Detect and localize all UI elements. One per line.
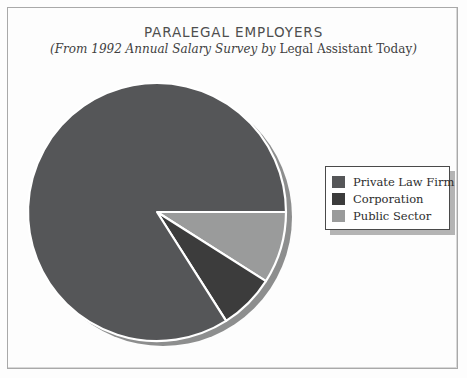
legend-item-private-law-firm[interactable]: Private Law Firm [332,174,454,190]
legend-label-corporation: Corporation [353,191,424,207]
legend-item-public-sector[interactable]: Public Sector [332,208,454,224]
legend-swatch-public-sector [332,210,345,222]
legend-label-private-law-firm: Private Law Firm [353,174,454,190]
chart-page: PARALEGAL EMPLOYERS (From 1992 Annual Sa… [0,0,467,378]
legend-item-corporation[interactable]: Corporation [332,191,454,207]
legend-swatch-private-law-firm [332,176,345,188]
legend-label-public-sector: Public Sector [353,208,431,224]
pie-slices [28,83,286,341]
legend-swatch-corporation [332,193,345,205]
legend-box[interactable]: Private Law Firm Corporation Public Sect… [325,166,450,230]
legend-item-list: Private Law Firm Corporation Public Sect… [332,174,454,225]
